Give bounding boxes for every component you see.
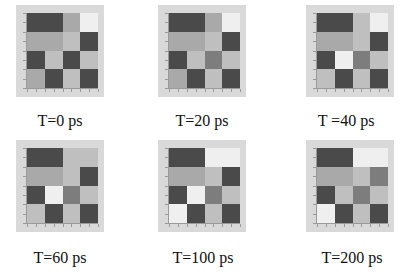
y-tick bbox=[23, 22, 26, 23]
panel-label-t200: T=200 ps bbox=[282, 249, 404, 267]
heatmap-cell bbox=[63, 69, 81, 88]
x-tick bbox=[36, 89, 37, 92]
x-tick bbox=[344, 89, 345, 92]
x-tick bbox=[344, 224, 345, 227]
heatmap-cell bbox=[335, 167, 353, 186]
x-tick bbox=[63, 224, 64, 227]
heatmap-cell bbox=[80, 69, 98, 88]
heatmap-cell bbox=[353, 148, 371, 167]
y-tick bbox=[165, 69, 168, 70]
y-tick bbox=[165, 60, 168, 61]
y-tick bbox=[23, 13, 26, 14]
heatmap-cell bbox=[27, 148, 45, 167]
y-tick bbox=[165, 195, 168, 196]
panel-label-t40: T =40 ps bbox=[276, 112, 404, 130]
x-tick bbox=[71, 224, 72, 227]
heatmap-cell bbox=[187, 148, 205, 167]
y-tick bbox=[23, 157, 26, 158]
y-tick bbox=[165, 176, 168, 177]
panel-label-t60: T=60 ps bbox=[0, 249, 130, 267]
heatmap-cell bbox=[63, 186, 81, 205]
x-tick bbox=[388, 224, 389, 227]
heatmap-cell bbox=[80, 186, 98, 205]
x-tick bbox=[54, 89, 55, 92]
y-tick bbox=[313, 13, 316, 14]
heatmap-cell bbox=[63, 148, 81, 167]
heatmap-cell bbox=[187, 69, 205, 88]
heatmap-cell bbox=[205, 186, 223, 205]
heatmap-cell bbox=[222, 148, 240, 167]
x-tick bbox=[169, 224, 170, 227]
y-tick bbox=[165, 223, 168, 224]
y-tick bbox=[23, 195, 26, 196]
x-tick bbox=[240, 89, 241, 92]
heatmap-cell bbox=[222, 167, 240, 186]
heatmap-cell bbox=[370, 32, 388, 51]
heatmap-cell bbox=[45, 13, 63, 32]
heatmap-cell bbox=[45, 167, 63, 186]
heatmap-cell bbox=[370, 186, 388, 205]
heatmap-cell bbox=[45, 69, 63, 88]
heatmap-cell bbox=[205, 69, 223, 88]
panel-label-t100: T=100 ps bbox=[133, 249, 273, 267]
y-tick bbox=[313, 223, 316, 224]
heatmap-cell bbox=[45, 51, 63, 70]
heatmap-cell bbox=[27, 69, 45, 88]
heatmap-cell bbox=[353, 32, 371, 51]
y-tick bbox=[23, 32, 26, 33]
x-tick bbox=[353, 89, 354, 92]
heatmap-grid bbox=[169, 13, 240, 88]
heatmap-cell bbox=[370, 148, 388, 167]
y-tick bbox=[165, 51, 168, 52]
y-tick bbox=[165, 148, 168, 149]
y-tick bbox=[23, 176, 26, 177]
x-tick bbox=[45, 224, 46, 227]
heatmap-cell bbox=[317, 186, 335, 205]
x-tick bbox=[213, 89, 214, 92]
y-tick bbox=[313, 195, 316, 196]
y-tick bbox=[313, 60, 316, 61]
panel-label-t0: T=0 ps bbox=[0, 112, 130, 130]
heatmap-cell bbox=[222, 186, 240, 205]
heatmap-cell bbox=[27, 204, 45, 223]
y-tick bbox=[313, 204, 316, 205]
heatmap-cell bbox=[222, 69, 240, 88]
heatmap-cell bbox=[353, 51, 371, 70]
x-tick bbox=[361, 224, 362, 227]
x-tick bbox=[196, 89, 197, 92]
heatmap-cell bbox=[370, 51, 388, 70]
y-tick bbox=[313, 176, 316, 177]
heatmap-cell bbox=[27, 13, 45, 32]
heatmap-cell bbox=[45, 32, 63, 51]
panel-t60 bbox=[16, 140, 104, 232]
panel-t200 bbox=[306, 140, 394, 232]
heatmap-cell bbox=[187, 204, 205, 223]
heatmap-cell bbox=[45, 204, 63, 223]
x-tick bbox=[169, 89, 170, 92]
heatmap-cell bbox=[187, 32, 205, 51]
panel-t20 bbox=[158, 5, 246, 97]
x-tick bbox=[317, 89, 318, 92]
x-tick bbox=[240, 224, 241, 227]
x-tick bbox=[80, 89, 81, 92]
heatmap-cell bbox=[169, 186, 187, 205]
heatmap-cell bbox=[63, 167, 81, 186]
y-tick bbox=[165, 204, 168, 205]
y-tick bbox=[165, 167, 168, 168]
y-tick bbox=[165, 88, 168, 89]
y-tick bbox=[165, 214, 168, 215]
heatmap-cell bbox=[222, 51, 240, 70]
heatmap-cell bbox=[222, 32, 240, 51]
x-tick bbox=[326, 89, 327, 92]
heatmap-cell bbox=[187, 186, 205, 205]
heatmap-cell bbox=[205, 148, 223, 167]
heatmap-cell bbox=[169, 167, 187, 186]
heatmap-cell bbox=[205, 204, 223, 223]
y-tick bbox=[313, 22, 316, 23]
y-tick bbox=[313, 214, 316, 215]
y-tick bbox=[165, 186, 168, 187]
y-tick bbox=[23, 214, 26, 215]
heatmap-cell bbox=[187, 167, 205, 186]
heatmap-cell bbox=[317, 204, 335, 223]
x-tick bbox=[231, 224, 232, 227]
